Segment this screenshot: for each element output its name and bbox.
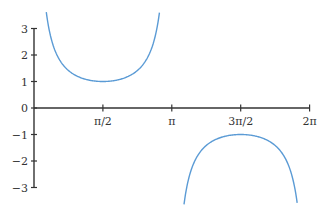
x-tick-label: 3π/2 [228,115,253,128]
y-tick-label: −2 [12,155,28,168]
y-tick-label: 2 [21,49,28,62]
csc-branch-1 [46,12,159,81]
axes-layer: 3210−1−2−3π/2π3π/22π [12,23,317,195]
x-tick-label: π/2 [94,115,112,128]
x-tick-label: π [168,115,175,128]
y-tick-label: 1 [21,76,28,89]
y-tick-label: −1 [12,129,28,142]
y-tick-label: 3 [21,23,28,36]
csc-chart: 3210−1−2−3π/2π3π/22π [0,0,330,208]
csc-branch-2 [184,135,297,205]
y-tick-label: −3 [12,182,28,195]
x-tick-label: 2π [302,115,316,128]
y-tick-label: 0 [21,102,28,115]
